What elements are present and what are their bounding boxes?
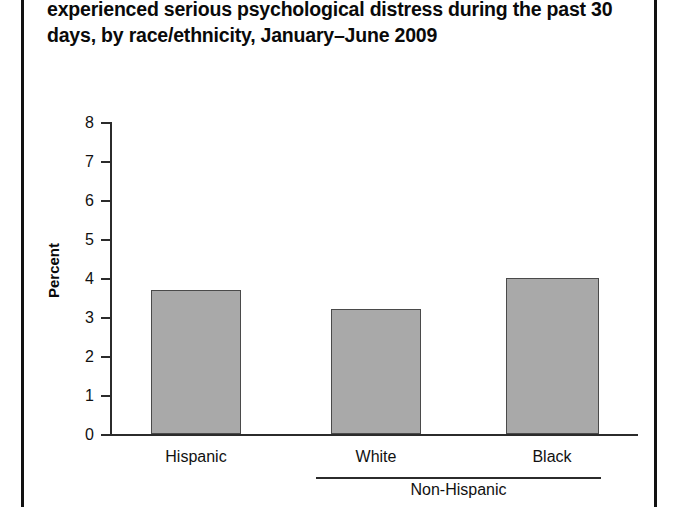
bar-black xyxy=(506,278,599,434)
y-axis-tick xyxy=(101,122,111,124)
y-axis-tick xyxy=(101,200,111,202)
group-bracket-label: Non-Hispanic xyxy=(316,481,601,499)
bar-white xyxy=(331,309,421,434)
x-axis-label-hispanic: Hispanic xyxy=(136,448,256,466)
y-axis-tick-label: 1 xyxy=(60,388,94,404)
x-axis-label-black: Black xyxy=(492,448,612,466)
y-axis-title: Percent xyxy=(45,216,62,326)
y-axis-tick xyxy=(101,434,111,436)
bar-hispanic xyxy=(151,290,241,434)
x-axis-label-white: White xyxy=(316,448,436,466)
y-axis-tick-label: 6 xyxy=(60,193,94,209)
y-axis-tick xyxy=(101,239,111,241)
x-axis-line xyxy=(110,434,638,436)
y-axis-tick-label: 3 xyxy=(60,310,94,326)
y-axis-tick xyxy=(101,356,111,358)
y-axis-tick-label: 8 xyxy=(60,115,94,131)
y-axis-tick xyxy=(101,395,111,397)
y-axis-tick xyxy=(101,278,111,280)
y-axis-tick xyxy=(101,317,111,319)
y-axis-tick-label: 0 xyxy=(60,427,94,443)
y-axis-tick-label: 7 xyxy=(60,154,94,170)
y-axis-tick xyxy=(101,161,111,163)
y-axis-tick-label: 5 xyxy=(60,232,94,248)
y-axis-tick-label: 4 xyxy=(60,271,94,287)
bar-chart-plot-area: Percent 8 7 6 5 4 3 2 1 0 Hispanic White… xyxy=(0,0,678,507)
group-bracket-rule xyxy=(316,477,601,479)
y-axis-tick-label: 2 xyxy=(60,349,94,365)
